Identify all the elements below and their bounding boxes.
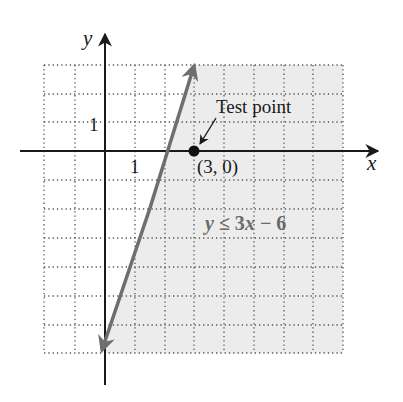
inequality-label: y ≤ 3x − 6	[203, 212, 286, 235]
x-tick-1-label: 1	[130, 156, 140, 177]
inequality-rel: ≤ 3	[214, 212, 245, 234]
y-tick-1-label: 1	[89, 114, 99, 135]
y-axis-label: y	[81, 26, 93, 50]
inequality-graph: y x 1 1 Test point (3, 0) y ≤ 3x − 6	[0, 0, 403, 402]
x-axis-label: x	[366, 151, 377, 175]
inequality-y: y	[203, 212, 214, 235]
test-point-marker	[189, 146, 200, 157]
test-point-callout: Test point	[216, 96, 292, 117]
test-point-coords: (3, 0)	[197, 156, 238, 178]
inequality-rest: − 6	[255, 212, 286, 234]
inequality-x: x	[244, 212, 255, 234]
